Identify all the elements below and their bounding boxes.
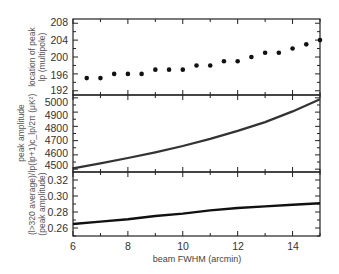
panel-frame bbox=[73, 19, 320, 95]
y-axis-label: (peak amplitude) bbox=[37, 172, 47, 235]
x-axis-label: beam FWHM (arcmin) bbox=[153, 254, 242, 264]
data-point bbox=[84, 76, 89, 81]
data-point bbox=[249, 55, 254, 60]
y-tick-label: 4500 bbox=[45, 159, 69, 171]
data-line bbox=[73, 99, 320, 168]
x-tick-label: 8 bbox=[125, 240, 131, 252]
y-tick-label: 0.28 bbox=[48, 206, 69, 218]
y-tick-label: 196 bbox=[50, 69, 68, 81]
data-point bbox=[263, 50, 268, 55]
data-point bbox=[112, 72, 117, 77]
data-point bbox=[222, 59, 227, 64]
y-tick-label: 4600 bbox=[45, 147, 69, 159]
data-point bbox=[277, 50, 282, 55]
x-tick-label: 10 bbox=[177, 240, 189, 252]
x-tick-label: 14 bbox=[287, 240, 299, 252]
data-point bbox=[208, 63, 213, 68]
y-tick-label: 192 bbox=[50, 84, 68, 96]
y-tick-label: 4800 bbox=[45, 122, 69, 134]
y-tick-label: 4900 bbox=[45, 109, 69, 121]
y-tick-label: 0.32 bbox=[48, 174, 69, 186]
y-axis-ticks bbox=[73, 180, 320, 236]
y-tick-label: 204 bbox=[50, 34, 68, 46]
data-point bbox=[153, 67, 158, 72]
data-point bbox=[290, 46, 295, 51]
data-point bbox=[98, 76, 103, 81]
y-axis-label: peak amplitude bbox=[16, 104, 26, 162]
y-axis-label: location of peak bbox=[27, 26, 37, 86]
y-tick-label: 208 bbox=[50, 16, 68, 28]
panel-frame bbox=[73, 172, 320, 236]
data-points bbox=[84, 38, 322, 81]
figure: 208 204 200 196 192 location of peak lp … bbox=[0, 0, 339, 274]
data-point bbox=[194, 63, 199, 68]
y-axis-label: lp (multipole) bbox=[37, 33, 47, 82]
data-point bbox=[318, 38, 323, 43]
panel-amplitude-ratio: 0.32 0.30 0.28 0.26 (l>320 average)/ (pe… bbox=[27, 172, 320, 236]
data-point bbox=[304, 42, 309, 47]
panel-peak-location: 208 204 200 196 192 location of peak lp … bbox=[27, 16, 322, 96]
data-point bbox=[139, 72, 144, 77]
y-tick-label: 4700 bbox=[45, 134, 69, 146]
data-point bbox=[180, 67, 185, 72]
y-tick-label: 200 bbox=[50, 51, 68, 63]
y-axis-ticks bbox=[73, 98, 320, 169]
x-axis-ticks bbox=[73, 19, 320, 236]
x-tick-label: 6 bbox=[70, 240, 76, 252]
y-tick-label: 5000 bbox=[45, 96, 69, 108]
y-tick-label: 0.26 bbox=[48, 222, 69, 234]
y-axis-label: lp(lp+1)c_lp/2π (μK²) bbox=[27, 94, 37, 173]
x-tick-label: 12 bbox=[232, 240, 244, 252]
y-axis-ticks bbox=[73, 23, 320, 91]
data-point bbox=[235, 59, 240, 64]
data-line bbox=[73, 203, 320, 224]
data-point bbox=[167, 67, 172, 72]
panel-peak-amplitude: 5000 4900 4800 4700 4600 4500 peak ampli… bbox=[16, 94, 320, 173]
data-point bbox=[126, 72, 131, 77]
y-axis-label: (l>320 average)/ bbox=[27, 172, 37, 235]
y-tick-label: 0.30 bbox=[48, 190, 69, 202]
